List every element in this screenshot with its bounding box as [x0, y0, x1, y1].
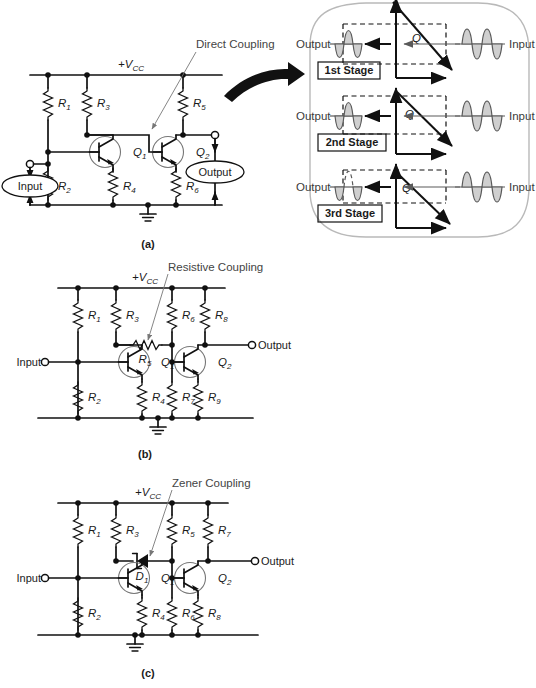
- resistor-r6-b: [168, 300, 177, 332]
- panel-c-zener-coupling: +VCC R1 R2 Input R3 D1 Q1: [17, 477, 295, 679]
- panel-a-direct-coupling: +VCC R1 R2 R3 Q1 R4: [2, 38, 305, 250]
- stage2-output-waveform: [330, 103, 362, 130]
- stage3-load-line: [394, 170, 450, 224]
- svg-text:+VCC: +VCC: [118, 58, 144, 73]
- resistor-label-r9-b: R9: [208, 391, 221, 406]
- resistor-label-r2-b: R2: [88, 391, 101, 406]
- input-terminal-c[interactable]: [41, 574, 48, 581]
- resistor-label-r8-b: R8: [215, 309, 228, 324]
- callout-label-b: Resistive Coupling: [168, 261, 263, 273]
- resistor-r1-a: [44, 88, 53, 120]
- node-r4-gnd-b: [139, 415, 145, 421]
- transistor-label-q2-b: Q2: [218, 356, 232, 371]
- resistor-r3-b: [112, 300, 121, 332]
- resistor-label-r1-b: R1: [88, 309, 101, 324]
- stage2-input-label: Input: [509, 110, 535, 122]
- supply-label-b: +VCC: [132, 271, 158, 286]
- stage2-output-label: Output: [296, 110, 331, 122]
- resistor-r1-c: [74, 515, 83, 547]
- output-label-b: Output: [258, 339, 291, 351]
- node-r4-gnd-a: [110, 202, 116, 208]
- resistor-label-r3-b: R3: [126, 309, 139, 324]
- output-terminal-c[interactable]: [251, 557, 258, 564]
- stage1-name: 1st Stage: [325, 64, 374, 76]
- resistor-label-r4-c: R4: [152, 607, 165, 622]
- detail-panel-stages: Q Input: [296, 0, 535, 237]
- resistor-r9-b: [194, 382, 203, 414]
- stage3-input-label: Input: [509, 181, 535, 193]
- node-r1-supply-c: [75, 500, 81, 506]
- output-terminal-b[interactable]: [248, 341, 255, 348]
- transistor-label-q2-c: Q2: [218, 572, 232, 587]
- stage-3: Q Input Output: [296, 164, 535, 228]
- figure-root: +VCC R1 R2 R3 Q1 R4: [0, 0, 536, 688]
- resistor-label-r5-c: R5: [182, 524, 195, 539]
- node-r6-gnd-c: [169, 632, 175, 638]
- stage3-output-label: Output: [296, 181, 331, 193]
- stage3-input-waveform: [455, 172, 505, 202]
- node-r3-supply-c: [113, 500, 119, 506]
- resistor-label-r7-c: R7: [218, 524, 231, 539]
- panel-tag-c: (c): [141, 667, 155, 679]
- panel-tag-a: (a): [141, 238, 155, 250]
- resistor-r4-c: [138, 598, 147, 630]
- node-r2-gnd-a: [45, 202, 51, 208]
- resistor-r8-c: [194, 598, 203, 630]
- resistor-label-r3-c: R3: [126, 524, 139, 539]
- ground-symbol-b: [150, 418, 166, 434]
- diode-label-d1-c: D1: [136, 570, 149, 585]
- transistor-q2-a: [153, 135, 184, 169]
- svg-text:+VCC: +VCC: [132, 271, 158, 286]
- resistor-r7-b: [168, 382, 177, 414]
- resistor-label-r5-b: R5: [139, 353, 152, 368]
- resistor-label-r6-b: R6: [182, 309, 195, 324]
- resistor-r5-a: [179, 88, 188, 120]
- node-r7-supply-c: [205, 500, 211, 506]
- resistor-r5-c: [168, 515, 177, 547]
- transistor-label-q1-a: Q1: [133, 146, 146, 161]
- stage2-name: 2nd Stage: [326, 136, 379, 148]
- resistor-r3-c: [112, 515, 121, 547]
- output-terminal-a[interactable]: [211, 131, 218, 138]
- stage1-q-label: Q: [412, 32, 421, 44]
- stage3-name: 3rd Stage: [325, 207, 375, 219]
- supply-label-c: +VCC: [135, 486, 161, 501]
- node-r8-supply-b: [202, 285, 208, 291]
- stage1-output-label: Output: [296, 38, 331, 50]
- resistor-label-r1-c: R1: [88, 524, 101, 539]
- input-label-b: Input: [17, 356, 41, 368]
- stage2-input-waveform: [455, 101, 505, 131]
- input-label-a: Input: [18, 180, 42, 192]
- panel-tag-b: (b): [138, 448, 152, 460]
- resistor-r4-b: [138, 382, 147, 414]
- input-terminal-a[interactable]: [26, 160, 33, 167]
- node-r3-supply-b: [113, 285, 119, 291]
- stage1-load-line: [393, 2, 452, 70]
- resistor-r3-a: [83, 88, 92, 120]
- stage3-output-waveform-clipped: [330, 171, 362, 200]
- resistor-label-r8-c: R8: [208, 607, 221, 622]
- node-r2-gnd-c: [75, 632, 81, 638]
- output-label-a: Output: [198, 166, 231, 178]
- resistor-label-r4-b: R4: [152, 391, 165, 406]
- node-r6-supply-b: [169, 285, 175, 291]
- node-r4-gnd-c: [139, 632, 145, 638]
- resistor-label-r2-c: R2: [88, 607, 101, 622]
- node-r9-gnd-b: [195, 415, 201, 421]
- node-r5-supply-c: [169, 500, 175, 506]
- stage-1: Q Input: [296, 0, 535, 79]
- stage1-input-label: Input: [509, 38, 535, 50]
- node-r1-supply-b: [75, 285, 81, 291]
- resistor-label-r7-b: R7: [182, 391, 195, 406]
- resistor-r8-b: [201, 300, 210, 332]
- callout-label-c: Zener Coupling: [172, 477, 251, 489]
- callout-pointer-a: [152, 52, 196, 129]
- node-r2-gnd-b: [75, 415, 81, 421]
- resistor-label-r1-a: R1: [58, 97, 71, 112]
- resistor-label-r2-a: R2: [58, 180, 71, 195]
- input-terminal-b[interactable]: [41, 358, 48, 365]
- output-label-c: Output: [261, 555, 294, 567]
- node-r3-supply-a: [84, 72, 90, 78]
- stage-2: Q Input Output 2nd S: [296, 88, 535, 154]
- node-r1-supply-a: [45, 72, 51, 78]
